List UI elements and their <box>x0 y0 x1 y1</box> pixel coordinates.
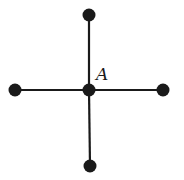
star-graph: A <box>0 0 184 180</box>
edge-a-bottom <box>89 90 90 166</box>
center-label: A <box>94 64 108 84</box>
node-center-a <box>83 84 96 97</box>
node-left <box>9 84 22 97</box>
node-top <box>83 9 96 22</box>
node-right <box>157 84 170 97</box>
node-bottom <box>84 160 97 173</box>
diagram-canvas: A <box>0 0 184 180</box>
